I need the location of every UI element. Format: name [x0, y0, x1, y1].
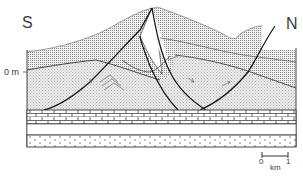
scale-unit-label: km	[270, 163, 281, 172]
limestone-layer	[27, 110, 296, 124]
scale-start-label: 0	[259, 157, 263, 166]
scale-bar	[262, 152, 288, 158]
direction-label-north: N	[286, 15, 298, 33]
blank-layer	[27, 124, 296, 135]
datum-label: 0 m	[4, 67, 19, 77]
scale-end-label: 1	[286, 157, 290, 166]
direction-label-south: S	[22, 14, 33, 32]
cross-section-diagram	[0, 0, 303, 179]
sandstone-layer	[27, 135, 296, 147]
